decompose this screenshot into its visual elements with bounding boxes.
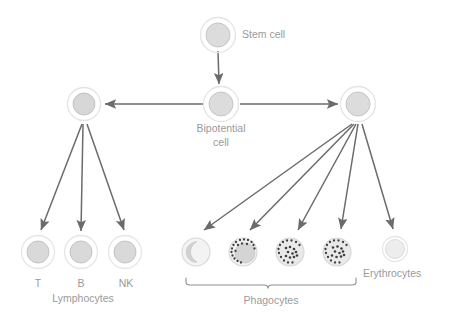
cell-monocyte[interactable] [182, 238, 210, 266]
label-phagocytes: Phagocytes [244, 294, 299, 307]
label-b-cell: B [77, 277, 84, 290]
label-lymphocytes: Lymphocytes [52, 292, 113, 305]
edge-myeloid-to-erythrocyte [362, 124, 393, 229]
edge-lymphoid-to-nk [87, 124, 124, 230]
cell-lymphoid-progenitor[interactable] [68, 88, 101, 121]
cell-erythrocyte[interactable] [383, 237, 408, 262]
phagocytes-bracket [186, 278, 356, 289]
label-erythrocytes: Erythrocytes [363, 267, 421, 280]
cell-b-lymphocyte[interactable] [65, 236, 98, 269]
cell-myeloid-progenitor[interactable] [341, 87, 376, 122]
cell-stem-cell[interactable] [201, 18, 236, 53]
cell-granulocyte-2[interactable] [276, 238, 304, 266]
label-bipotential-line1: Bipotential [196, 122, 245, 135]
cell-bipotential-cell[interactable] [204, 87, 239, 122]
cell-t-lymphocyte[interactable] [22, 236, 55, 269]
cell-granulocyte-3[interactable] [323, 238, 351, 266]
diagram-canvas: Stem cell Bipotential cell T B NK Lympho… [0, 0, 453, 329]
label-stem-cell: Stem cell [242, 28, 285, 41]
edge-myeloid-to-granulocyte-3 [341, 124, 358, 229]
label-nk-cell: NK [119, 277, 134, 290]
edge-myeloid-to-granulocyte-1 [250, 124, 354, 230]
edge-lymphoid-to-b [81, 124, 83, 231]
edge-stem-to-bipotential [218, 51, 219, 84]
edge-lymphoid-to-t [41, 124, 82, 230]
edge-myeloid-to-granulocyte-2 [298, 124, 356, 230]
label-bipotential-line2: cell [213, 136, 229, 149]
cell-granulocyte-1[interactable] [229, 238, 257, 266]
label-t-cell: T [35, 277, 41, 290]
cell-nk-lymphocyte[interactable] [109, 236, 142, 269]
